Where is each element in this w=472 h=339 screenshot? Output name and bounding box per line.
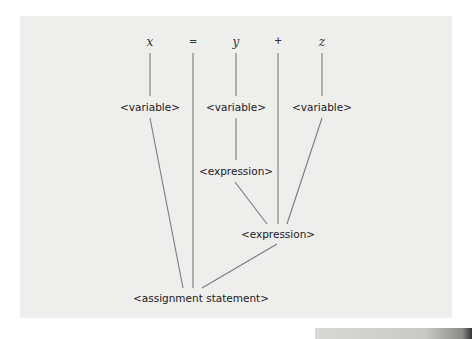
terminal-z: z <box>319 35 325 49</box>
nonterminal-variable-z: <variable> <box>292 101 352 113</box>
terminal-equals: = <box>189 34 196 48</box>
terminal-plus: + <box>274 34 281 48</box>
edge-expression-assign <box>202 244 277 288</box>
nonterminal-assignment-statement: <assignment statement> <box>133 292 269 304</box>
terminal-x: x <box>147 35 154 49</box>
terminal-y: y <box>233 35 240 49</box>
nonterminal-expression-outer: <expression> <box>241 228 315 240</box>
edge-variable-z-expression <box>287 118 322 224</box>
edge-inner-outer-expression <box>235 182 267 224</box>
nonterminal-expression-inner: <expression> <box>199 165 273 177</box>
edge-variable-x-assign <box>150 118 183 288</box>
nonterminal-variable-y: <variable> <box>206 101 266 113</box>
nonterminal-variable-x: <variable> <box>120 101 180 113</box>
